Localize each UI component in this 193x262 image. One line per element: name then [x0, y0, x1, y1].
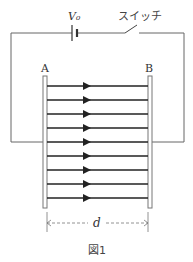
plate-a [43, 76, 47, 208]
plate-b [148, 76, 152, 208]
electric-field-lines [47, 82, 148, 202]
arrowhead-icon [83, 180, 91, 188]
arrowhead-icon [83, 138, 91, 146]
distance-label: d [93, 216, 101, 230]
switch-icon[interactable] [125, 25, 137, 33]
arrowhead-icon [83, 194, 91, 202]
arrowhead-icon [83, 82, 91, 90]
arrowhead-icon [83, 110, 91, 118]
battery-label: V₀ [68, 10, 81, 23]
figure-caption: 図1 [88, 244, 106, 257]
arrowhead-icon [83, 96, 91, 104]
arrowhead-icon [83, 166, 91, 174]
battery-icon [72, 25, 77, 41]
plate-a-label: A [40, 62, 50, 75]
circuit-wires [11, 33, 184, 142]
plate-b-label: B [145, 62, 153, 75]
capacitor-circuit-diagram: V₀ スイッチ A B d 図1 [0, 0, 193, 262]
arrowhead-icon [83, 152, 91, 160]
switch-label: スイッチ [118, 10, 162, 23]
arrowhead-icon [83, 124, 91, 132]
